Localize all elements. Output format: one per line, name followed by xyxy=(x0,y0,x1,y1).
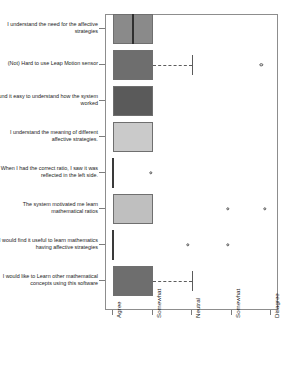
outlier-point xyxy=(186,243,189,246)
box xyxy=(113,86,153,116)
x-axis-tick xyxy=(152,310,153,315)
whisker-cap xyxy=(192,271,193,291)
y-axis-label: I found it easy to understand how the sy… xyxy=(0,93,98,107)
box xyxy=(113,266,153,296)
y-axis-label: The system motivated me learn mathematic… xyxy=(0,201,98,215)
y-axis-label: I understand the need for the affective … xyxy=(0,21,98,35)
x-axis-tick xyxy=(191,310,192,315)
whisker-upper xyxy=(153,65,193,66)
y-axis-label: I would find it useful to learn mathemat… xyxy=(0,237,98,251)
x-axis-label: Disagree xyxy=(273,293,280,318)
outlier-point xyxy=(149,171,152,174)
x-axis-label: Agree xyxy=(115,301,122,318)
x-axis-tick xyxy=(270,310,271,315)
x-axis-label: Neutral xyxy=(194,298,201,318)
y-axis-label: I would like to Learn other mathematical… xyxy=(0,273,98,287)
plot-area xyxy=(105,14,278,310)
outlier-point xyxy=(259,63,262,66)
y-axis-label: When I had the correct ratio, I saw it w… xyxy=(0,165,98,179)
whisker-upper xyxy=(153,281,193,282)
x-axis-label: Somewhat xyxy=(155,289,162,318)
outlier-point xyxy=(226,207,229,210)
box xyxy=(113,122,153,152)
x-axis-tick xyxy=(112,310,113,315)
whisker-cap xyxy=(192,55,193,75)
box-collapsed xyxy=(112,230,114,260)
box xyxy=(113,194,153,224)
y-axis-label: I understand the meaning of different af… xyxy=(0,129,98,143)
outlier-point xyxy=(226,243,229,246)
box-collapsed xyxy=(112,158,114,188)
median-line xyxy=(132,14,134,44)
box xyxy=(113,50,153,80)
boxplot-chart: I understand the need for the affective … xyxy=(0,0,295,376)
outlier-point xyxy=(263,207,266,210)
x-axis-tick xyxy=(231,310,232,315)
x-axis-label: Somewhat xyxy=(234,289,241,318)
y-axis-label: (Not) Hard to use Leap Motion sensor xyxy=(0,60,98,67)
